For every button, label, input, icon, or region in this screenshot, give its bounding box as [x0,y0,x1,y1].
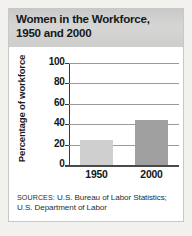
y-tick-label: 20 [31,138,65,149]
x-axis-line [65,165,179,167]
bar-chart: Percentage of workforce 0204060801001950… [9,47,185,189]
y-axis-title: Percentage of workforce [16,49,27,169]
title-band: Women in the Workforce, 1950 and 2000 [9,9,183,47]
y-tick-mark [65,63,69,64]
gridline [69,104,179,105]
x-tick-label-2000: 2000 [129,169,175,180]
bar-2000 [135,120,168,165]
gridline [69,63,179,64]
y-tick-mark [65,145,69,146]
x-tick-label-1950: 1950 [74,169,120,180]
y-tick-label: 80 [31,76,65,87]
y-tick-mark [65,124,69,125]
y-tick-mark [65,104,69,105]
sources-label: SOURCES: [17,194,55,202]
sources-note: SOURCES: U.S. Bureau of Labor Statistics… [17,193,177,214]
y-tick-mark [65,165,69,166]
y-axis-line [69,63,70,165]
figure-panel: Women in the Workforce, 1950 and 2000 Pe… [8,8,184,222]
bar-1950 [80,140,113,166]
gridline [69,83,179,84]
y-tick-label: 40 [31,117,65,128]
y-tick-label: 0 [31,158,65,169]
y-tick-label: 100 [31,56,65,67]
y-tick-label: 60 [31,97,65,108]
title-line-2: 1950 and 2000 [16,26,179,40]
title-line-1: Women in the Workforce, [16,12,150,25]
plot-area: 02040608010019502000 [69,63,179,165]
page-title: Women in the Workforce, 1950 and 2000 [16,12,179,39]
y-tick-mark [65,83,69,84]
